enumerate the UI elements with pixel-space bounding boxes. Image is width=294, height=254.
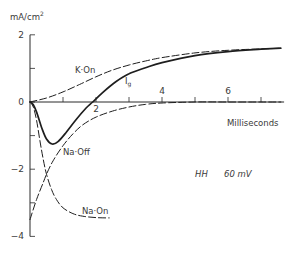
na-off-label: Na·Off: [63, 147, 91, 157]
voltage-annotation: 60 mV: [224, 169, 253, 179]
series-ig: [30, 48, 281, 144]
y-axis-label: mA/cm2: [10, 10, 44, 22]
x-tick-label: 4: [159, 86, 165, 96]
x-tick-label: 6: [225, 86, 231, 96]
k-on-label: K·On: [75, 65, 95, 75]
y-tick-label: 0: [18, 97, 24, 107]
series-k-on: [30, 48, 281, 102]
y-tick-label: 2: [18, 30, 24, 40]
na-on-label: Na·On: [82, 206, 108, 216]
y-tick-label: −4: [11, 231, 25, 241]
x-axis-label: Milliseconds: [227, 118, 279, 128]
y-tick-label: −2: [11, 164, 24, 174]
current-vs-time-chart: 20−2−4246 mA/cm2 Milliseconds K·On Ig Na…: [0, 0, 294, 254]
axes: 20−2−4246: [11, 30, 284, 242]
series-na-on: [30, 102, 109, 218]
x-tick-label: 2: [93, 104, 99, 114]
ig-label: Ig: [125, 76, 132, 88]
model-annotation: HH: [195, 169, 208, 179]
series-group: [30, 48, 281, 219]
